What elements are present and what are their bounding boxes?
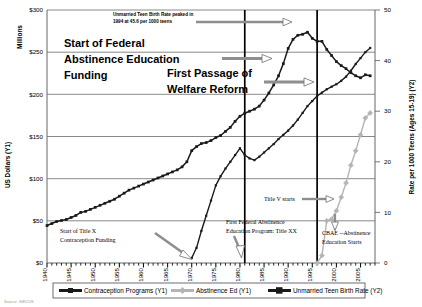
data-point (306, 31, 309, 34)
data-point (94, 206, 97, 209)
data-point (350, 71, 353, 74)
data-point (287, 129, 289, 131)
data-point (277, 74, 280, 77)
data-point (248, 110, 251, 113)
data-point (99, 204, 102, 207)
data-point (190, 149, 193, 152)
data-point (273, 143, 275, 145)
y-axis-unit-label: Millions (16, 25, 23, 49)
y-tick-label: $50 (33, 217, 44, 224)
annotation-line: Funding (64, 69, 107, 81)
data-point (224, 167, 226, 169)
annotation-line: Unmarried Teen Birth Rate peaked in (113, 12, 194, 17)
data-point (195, 145, 198, 148)
data-point (60, 219, 63, 222)
data-point (292, 124, 294, 126)
legend-marker (276, 287, 283, 294)
annotation-line: Welfare Reform (167, 83, 248, 95)
x-tick-label: 1945 (65, 267, 72, 281)
data-point (369, 74, 372, 77)
y-tick-label: $100 (29, 175, 43, 182)
data-point (292, 38, 295, 41)
data-point (326, 88, 328, 90)
data-point (166, 173, 169, 176)
data-point (220, 175, 222, 177)
data-point (75, 214, 78, 217)
annotation-line: First Federal Abstinence (226, 219, 285, 225)
data-point (340, 80, 342, 82)
data-point (219, 134, 222, 137)
data-point (359, 76, 362, 79)
data-point (321, 92, 323, 94)
data-point (354, 74, 357, 77)
y2-tick-label: 10 (384, 209, 391, 216)
data-point (229, 126, 232, 129)
data-point (229, 161, 231, 163)
x-tick-label: 1980 (234, 267, 241, 281)
x-tick-label: 1955 (113, 267, 120, 281)
data-point (311, 100, 313, 102)
data-point (282, 62, 285, 65)
data-point (340, 64, 343, 67)
data-point (186, 160, 189, 163)
data-point (132, 187, 135, 190)
data-point (152, 179, 155, 182)
x-tick-label: 1970 (186, 267, 193, 281)
legend: Contraception Programs (Y1) Abstinence E… (53, 283, 382, 298)
data-point (55, 220, 58, 223)
data-point (253, 159, 255, 161)
data-point (345, 76, 347, 78)
legend-label: Contraception Programs (Y1) (84, 287, 167, 295)
annotation-line: 1994 at 45.6 per 1000 teens (113, 19, 172, 24)
data-point (65, 218, 68, 221)
data-point (330, 86, 332, 88)
y-tick-label: $200 (29, 91, 43, 98)
annotation-line: First Passage of (167, 67, 252, 79)
x-tick-label: 2005 (354, 267, 361, 281)
annotation-line: CBAE --Abstinence (322, 230, 371, 236)
chart-footer-source: Source: SIECUS (4, 299, 34, 304)
data-point (316, 95, 318, 97)
x-tick-label: 2000 (330, 267, 337, 281)
data-point (263, 151, 265, 153)
line-chart: $300 $250 $200 $150 $100 $50 $0 Millions… (0, 0, 422, 307)
x-tick-label: 1940 (41, 267, 48, 281)
y-axis-title: US Dollars (Y1) (4, 142, 12, 188)
data-point (258, 105, 261, 108)
data-point (302, 112, 304, 114)
x-tick-label: 1950 (89, 267, 96, 281)
data-point (325, 48, 328, 51)
data-point (345, 67, 348, 70)
data-point (200, 230, 202, 232)
data-point (316, 40, 319, 43)
data-point (147, 181, 150, 184)
data-point (89, 208, 92, 211)
data-point (234, 154, 236, 156)
data-point (335, 83, 337, 85)
data-point (364, 51, 366, 53)
annotation-line: Contraception Funding (60, 237, 116, 243)
annotation-line: Start of Federal (64, 37, 145, 49)
data-point (224, 130, 227, 133)
data-point (123, 192, 126, 195)
data-point (321, 40, 324, 43)
data-point (142, 183, 145, 186)
data-point (46, 224, 49, 227)
data-point (268, 92, 271, 95)
data-point (311, 37, 314, 40)
x-tick-label: 1990 (282, 267, 289, 281)
y2-tick-label: 40 (384, 57, 391, 64)
data-point (137, 185, 140, 188)
data-point (239, 147, 241, 149)
data-point (79, 211, 82, 214)
x-tick-label: 1965 (162, 267, 169, 281)
data-point (296, 34, 299, 37)
data-point (277, 138, 279, 140)
data-point (253, 108, 256, 111)
data-point (330, 54, 333, 57)
data-point (195, 247, 197, 249)
data-point (282, 134, 284, 136)
data-point (181, 166, 184, 169)
data-point (214, 136, 217, 139)
y-tick-label: $300 (29, 6, 43, 13)
